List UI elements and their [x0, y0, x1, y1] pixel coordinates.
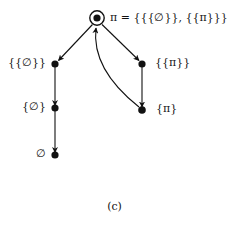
edge-root-to-setset-pi	[102, 25, 139, 61]
diagram-nodes	[51, 11, 145, 159]
node-setset-empty[interactable]	[51, 60, 58, 67]
node-set-empty[interactable]	[51, 104, 58, 111]
diagram-edges	[55, 25, 142, 153]
node-label-set-pi: {π}	[156, 103, 177, 114]
node-label-set-empty: {∅}	[22, 101, 46, 112]
node-label-empty: ∅	[36, 148, 46, 159]
edge-root-to-setset-empty	[59, 25, 93, 61]
node-empty[interactable]	[51, 151, 58, 158]
node-label-setset-empty: {{∅}}	[8, 57, 46, 68]
diagram-canvas	[0, 0, 229, 231]
node-label-setset-pi: {{π}}	[155, 57, 190, 68]
node-set-pi[interactable]	[138, 106, 146, 114]
node-root[interactable]	[90, 11, 104, 25]
node-setset-pi[interactable]	[138, 60, 145, 67]
figure-caption: (c)	[0, 200, 229, 213]
node-label-root: π = {{{∅}}, {{π}}}	[110, 11, 228, 24]
set-membership-diagram: π = {{{∅}}, {{π}}} {{∅}} {{π}} {∅} {π} ∅…	[0, 0, 229, 231]
